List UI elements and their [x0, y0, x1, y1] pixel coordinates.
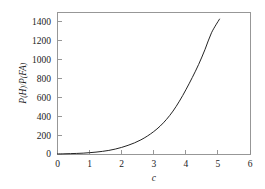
x-tick-label: 2: [119, 159, 124, 169]
x-axis-title: c: [152, 173, 157, 183]
x-axis-tick-labels: 0123456: [55, 159, 253, 169]
y-tick-label: 600: [37, 93, 52, 103]
y-tick-label: 1000: [32, 55, 51, 65]
y-tick-label: 400: [37, 112, 52, 122]
x-tick-label: 3: [151, 159, 156, 169]
y-tick-label: 0: [46, 149, 51, 159]
x-tick-label: 6: [248, 159, 253, 169]
chart-plot: 0123456 0200400600800100012001400 c P(H)…: [0, 0, 265, 189]
y-tick-label: 200: [37, 131, 52, 141]
x-tick-label: 4: [183, 159, 188, 169]
data-line: [58, 19, 220, 154]
y-tick-label: 1400: [32, 17, 51, 27]
y-axis-tick-labels: 0200400600800100012001400: [32, 17, 51, 159]
y-axis-ticks: [58, 22, 62, 154]
y-tick-label: 1200: [32, 36, 51, 46]
figure-container: 0123456 0200400600800100012001400 c P(H)…: [0, 0, 265, 189]
x-tick-label: 0: [55, 159, 60, 169]
plot-frame: [58, 13, 251, 155]
data-series-layer: [58, 19, 220, 154]
x-axis-title-text: c: [152, 173, 157, 183]
y-tick-label: 800: [37, 74, 52, 84]
x-tick-label: 5: [216, 159, 221, 169]
x-tick-label: 1: [87, 159, 92, 169]
y-axis-title: P(H)/P(FA): [18, 62, 28, 104]
y-axis-title-text: P(H)/P(FA): [18, 62, 28, 104]
